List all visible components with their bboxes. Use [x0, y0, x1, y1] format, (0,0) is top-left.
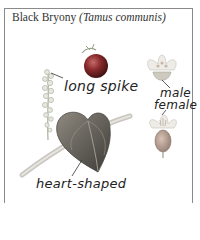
male-flower	[148, 55, 177, 88]
label-long-spike: long spike	[64, 78, 138, 94]
label-heart-shaped: heart-shaped	[36, 176, 126, 191]
female-flower	[150, 110, 177, 158]
heart-shaped-leaf	[57, 112, 111, 176]
berry	[82, 44, 108, 78]
label-female: female	[154, 98, 197, 112]
